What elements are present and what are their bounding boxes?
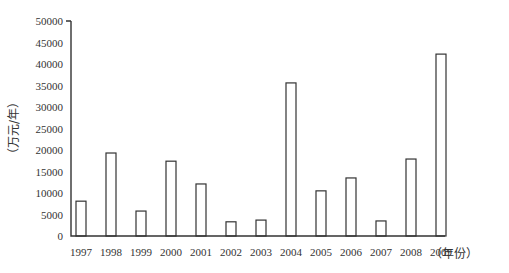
x-tick-label: 2002 (220, 246, 242, 258)
x-tick-label: 1998 (100, 246, 123, 258)
bar-2007 (376, 221, 386, 236)
x-tick-label: 1999 (130, 246, 153, 258)
bar-chart: 0500010000150002000025000300003500040000… (0, 0, 509, 273)
axes (66, 21, 445, 236)
y-tick-label: 0 (58, 230, 64, 242)
bar-2003 (256, 220, 266, 236)
x-tick-label: 1997 (70, 246, 93, 258)
y-tick-label: 15000 (36, 166, 64, 178)
y-tick-label: 5000 (41, 209, 64, 221)
x-tick-label: 2006 (340, 246, 363, 258)
x-tick-label: 2000 (160, 246, 183, 258)
x-tick-label: 2004 (280, 246, 303, 258)
y-tick-label: 50000 (36, 15, 64, 27)
bars (76, 54, 446, 236)
y-tick-label: 35000 (36, 80, 64, 92)
x-tick-label: 2003 (250, 246, 273, 258)
y-tick-label: 45000 (36, 37, 64, 49)
bar-1997 (76, 201, 86, 236)
bar-2002 (226, 222, 236, 236)
x-tick-label: 2001 (190, 246, 212, 258)
y-axis-ticks: 0500010000150002000025000300003500040000… (36, 15, 64, 242)
bar-2000 (166, 161, 176, 236)
x-tick-label: 2008 (400, 246, 423, 258)
bar-1999 (136, 211, 146, 236)
bar-1998 (106, 153, 116, 236)
y-tick-label: 30000 (36, 101, 64, 113)
x-axis-ticks: 1997199819992000200120022003200420052006… (70, 246, 453, 258)
bar-2005 (316, 191, 326, 236)
bar-2004 (286, 83, 296, 236)
bar-2009 (436, 54, 446, 236)
bar-2008 (406, 159, 416, 236)
x-tick-label: 2007 (370, 246, 393, 258)
y-tick-label: 40000 (36, 58, 64, 70)
x-axis-label: （年份） (430, 247, 478, 261)
y-axis-label: （万元/年） (7, 96, 21, 160)
x-tick-label: 2005 (310, 246, 333, 258)
bar-2001 (196, 184, 206, 236)
bar-2006 (346, 178, 356, 236)
y-tick-label: 20000 (36, 144, 64, 156)
y-tick-label: 10000 (36, 187, 64, 199)
y-tick-label: 25000 (36, 123, 64, 135)
